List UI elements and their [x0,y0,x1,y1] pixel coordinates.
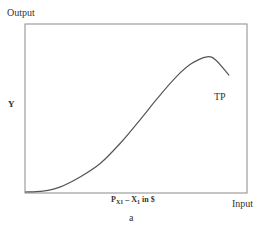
x-axis-title: Input [232,199,253,209]
x-axis-marker: PX1 – X1 in $ [111,196,155,205]
x-marker-tail: in $ [140,195,155,204]
chart-frame [25,24,247,193]
tp-curve [25,57,229,192]
y-axis-title: Output [7,8,35,18]
tp-curve-label: TP [214,92,226,102]
y-axis-marker: Y [8,100,15,109]
x-marker-mid: – X [123,195,137,204]
figure-caption: a [129,213,133,223]
